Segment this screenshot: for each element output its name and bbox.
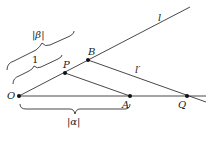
label-alpha: |α| (67, 117, 81, 127)
geometry-figure (0, 0, 221, 144)
diagram: O P B A Q l l′ |β| 1 |α| (0, 0, 221, 144)
point-O (17, 94, 21, 98)
label-A: A (122, 100, 129, 110)
label-P: P (63, 60, 70, 70)
label-O: O (7, 91, 15, 101)
point-Q (185, 94, 189, 98)
brace-alpha (20, 104, 130, 114)
point-A (128, 94, 132, 98)
label-one: 1 (32, 55, 38, 65)
point-P (63, 71, 67, 75)
label-line-l: l (158, 13, 161, 23)
line-l (19, 7, 190, 96)
label-line-l-prime: l′ (135, 65, 140, 75)
label-B: B (88, 47, 95, 57)
label-Q: Q (178, 100, 186, 110)
point-B (86, 58, 90, 62)
label-beta: |β| (32, 30, 45, 40)
segment-PA (65, 73, 130, 96)
